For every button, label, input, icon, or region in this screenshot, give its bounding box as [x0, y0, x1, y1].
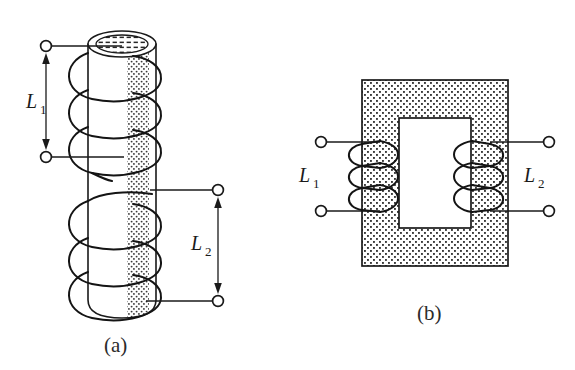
label-l2-letter: L	[523, 164, 535, 186]
label-l2-subscript: 2	[205, 244, 212, 259]
coil-arc-left	[349, 144, 362, 166]
coil-arc-left	[349, 166, 362, 188]
rect-core	[362, 80, 508, 266]
arrowhead-down	[42, 139, 50, 150]
label-l2-letter: L	[190, 232, 202, 254]
label-l1-subscript: 1	[313, 176, 320, 191]
terminal-l2-top[interactable]	[150, 185, 223, 196]
label-l1-panel-a: L 1	[25, 90, 47, 117]
panel-a-group: L 1	[25, 31, 223, 357]
terminal-circle[interactable]	[544, 206, 555, 217]
label-l1-letter: L	[25, 90, 37, 112]
dimension-arrow-l2	[214, 197, 222, 294]
label-l2-subscript: 2	[538, 176, 545, 191]
label-l2-panel-b: L 2	[523, 164, 545, 191]
panel-b-group: L 1	[298, 80, 554, 325]
terminal-circle[interactable]	[41, 41, 52, 52]
coil-arc-left	[349, 188, 362, 210]
terminal-circle[interactable]	[316, 137, 327, 148]
label-l1-letter: L	[298, 164, 310, 186]
arrowhead-up	[214, 197, 222, 208]
core-window-rect	[399, 118, 471, 228]
inductor-figure-canvas: L 1	[0, 0, 575, 370]
arrowhead-up	[42, 53, 50, 64]
arrowhead-down	[214, 283, 222, 294]
figure-root: L 1	[0, 0, 575, 370]
terminal-circle[interactable]	[316, 206, 327, 217]
terminal-circle[interactable]	[213, 185, 224, 196]
label-l1-panel-b: L 1	[298, 164, 320, 191]
caption-panel-b: (b)	[417, 301, 442, 325]
rod-end-face-hatched	[96, 35, 148, 53]
terminal-circle[interactable]	[213, 296, 224, 307]
caption-panel-a: (a)	[104, 333, 127, 357]
terminal-circle[interactable]	[41, 152, 52, 163]
label-l1-subscript: 1	[40, 102, 47, 117]
terminal-circle[interactable]	[544, 137, 555, 148]
label-l2-panel-a: L 2	[190, 232, 212, 259]
